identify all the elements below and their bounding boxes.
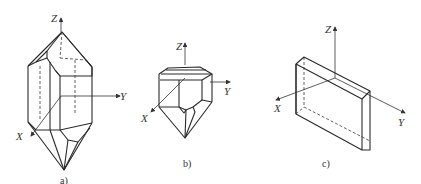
- panel-a: Z Y X a): [15, 12, 128, 184]
- panel-c: Z Y X c): [273, 23, 406, 170]
- caption-b: b): [183, 158, 191, 170]
- x-label-c: X: [273, 102, 282, 114]
- x-label-a: X: [15, 130, 24, 142]
- crystal-figure: Z Y X a) Z Y X: [0, 0, 421, 184]
- x-axis-c: [276, 78, 335, 100]
- panel-b: Z Y X b): [140, 40, 232, 170]
- z-label-b: Z: [176, 40, 183, 52]
- caption-c: c): [322, 158, 330, 170]
- z-label-c: Z: [325, 23, 332, 35]
- x-label-b: X: [140, 112, 149, 124]
- y-label-a: Y: [120, 90, 128, 102]
- z-label-a: Z: [51, 12, 58, 24]
- y-label-c: Y: [398, 116, 406, 128]
- y-label-b: Y: [224, 85, 232, 97]
- caption-a: a): [60, 175, 68, 184]
